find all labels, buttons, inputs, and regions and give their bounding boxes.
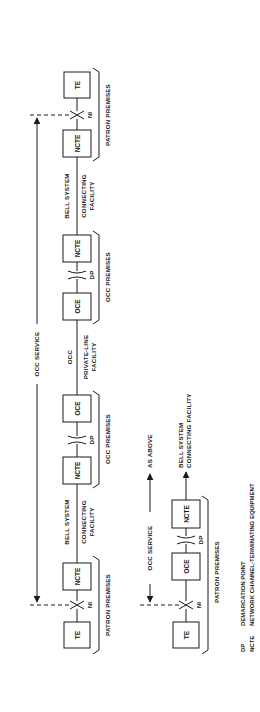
link-2-line1: OCC [66, 327, 73, 387]
link-2-line3: FACILITY [90, 327, 97, 387]
patron-premises-right-label: PATRON PREMISES [104, 70, 111, 160]
occ-premises-1-label: OCC PREMISES [104, 394, 111, 484]
lower-patron-premises-label: PATRON PREMISES [213, 512, 220, 632]
legend-row-dp: DPDEMARCATION POINT [240, 561, 246, 652]
link-2-line2: PRIVATE-LINE [82, 327, 89, 387]
te-left-label: TE [64, 622, 90, 648]
legend-meaning-dp: DEMARCATION POINT [240, 561, 246, 626]
ni-right-label: NI [86, 108, 93, 122]
ncte-1-label: NCTE [63, 563, 91, 590]
as-above-label: AS ABOVE [146, 428, 153, 468]
ncte-2-label: NCTE [63, 457, 91, 484]
ncte-3-label: NCTE [63, 235, 91, 262]
lower-oce-label: OCE [172, 553, 200, 580]
link-1-line1: BELL SYSTEM [63, 492, 70, 552]
legend-meaning-ncte: NETWORK CHANNEL-TERMINATING EQUIPMENT [249, 483, 255, 626]
dp-1-label: DP [88, 433, 95, 447]
ni-left-label: NI [86, 598, 93, 612]
link-1-line3: FACILITY [88, 492, 95, 552]
link-3-line2: CONNECTING [80, 166, 87, 226]
lower-occ-service-label: OCC SERVICE [146, 512, 153, 584]
link-1-line2: CONNECTING [80, 492, 87, 552]
legend-abbr-ncte: NCTE [249, 626, 255, 652]
link-3-line3: FACILITY [88, 166, 95, 226]
occ-service-label: OCC SERVICE [33, 324, 40, 384]
lower-ncte-label: NCTE [172, 500, 200, 528]
oce-1-label: OCE [63, 395, 91, 422]
oce-2-label: OCE [63, 293, 91, 320]
ncte-4-label: NCTE [63, 130, 91, 157]
dp-2-label: DP [88, 268, 95, 282]
lower-ni-label: NI [195, 598, 202, 612]
occ-premises-2-label: OCC PREMISES [104, 232, 111, 322]
lower-link-line2: CONNECTING FACILITY [185, 378, 192, 468]
link-3-line1: BELL SYSTEM [63, 166, 70, 226]
legend-row-ncte: NCTENETWORK CHANNEL-TERMINATING EQUIPMEN… [249, 483, 255, 652]
lower-link-line1: BELL SYSTEM [177, 388, 184, 468]
legend-abbr-dp: DP [240, 626, 246, 652]
lower-dp-label: DP [197, 533, 204, 547]
lower-te-label: TE [173, 622, 199, 648]
diagram-canvas: TE NI NCTE BELL SYSTEM CONNECTING FACILI… [0, 0, 260, 712]
patron-premises-left-label: PATRON PREMISES [104, 560, 111, 650]
te-right-label: TE [64, 72, 90, 98]
